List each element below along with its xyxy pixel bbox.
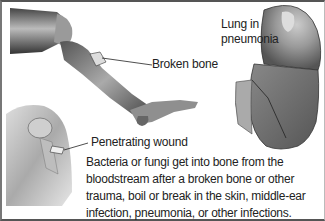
label-penetrating-wound: Penetrating wound [91,135,188,150]
figure-frame: Lung in pneumonia Broken bone Penetratin… [0,0,325,221]
shoulder-illustration [6,105,88,206]
label-lung: Lung in pneumonia [221,17,279,47]
figure-caption: Bacteria or fungi get into bone from the… [86,154,324,221]
label-broken-bone: Broken bone [152,57,218,72]
